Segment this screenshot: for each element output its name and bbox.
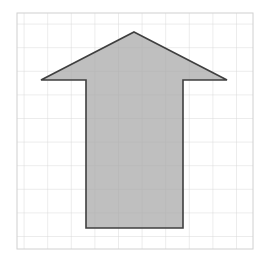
figure-container xyxy=(0,0,262,268)
arrow-grid-diagram xyxy=(0,0,262,268)
